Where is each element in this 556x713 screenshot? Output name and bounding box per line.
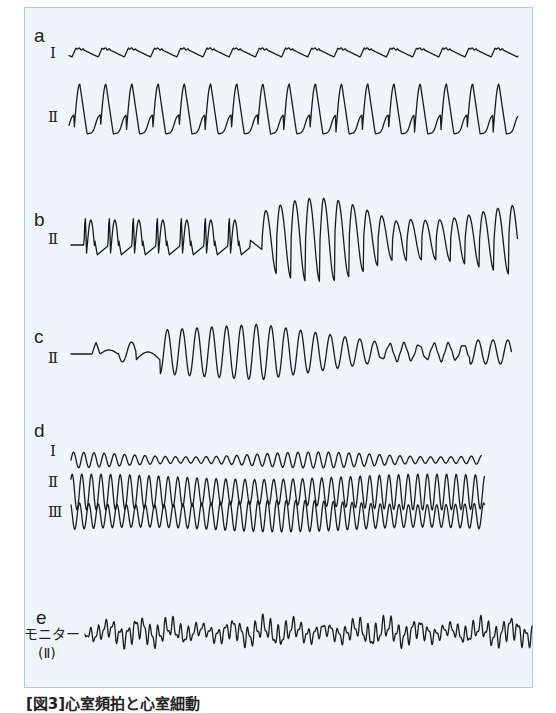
ecg-trace-d-lead-1: [71, 452, 481, 468]
ecg-trace-b-lead-2: [71, 198, 517, 281]
ecg-trace-a-lead-2: [69, 84, 518, 134]
ecg-trace-a-lead-1: [69, 48, 518, 57]
ecg-trace-c-lead-2: [71, 324, 511, 379]
figure-caption: [図3]心室頻拍と心室細動: [26, 692, 200, 713]
ecg-trace-e-monitor: [85, 614, 532, 649]
